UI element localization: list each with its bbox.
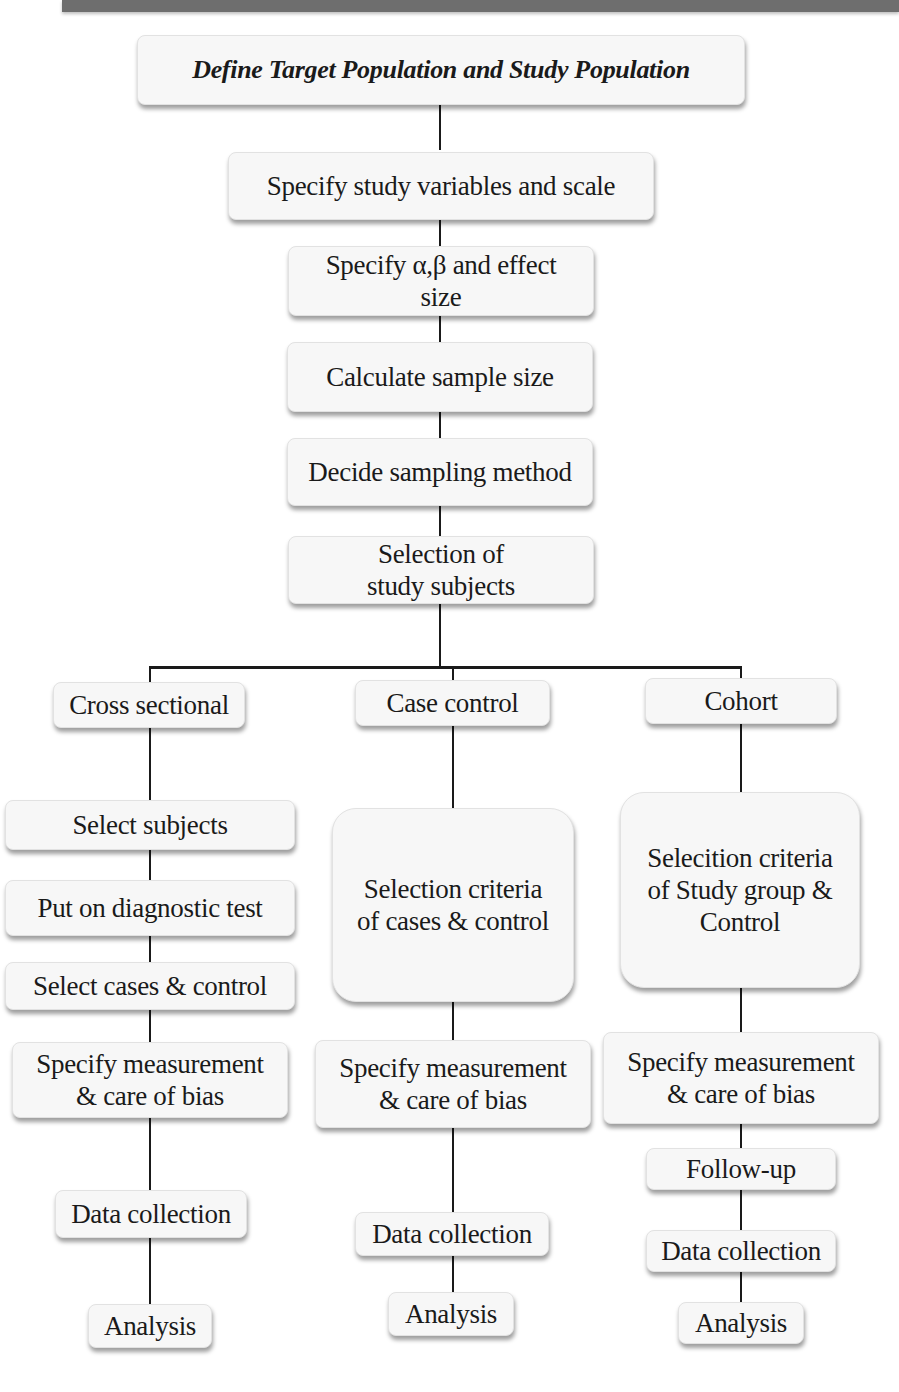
connector (149, 1238, 151, 1304)
connector (439, 220, 441, 246)
selection-criteria-cases-box: Selection criteria of cases & control (332, 808, 574, 1002)
analysis-box-case: Analysis (388, 1292, 514, 1336)
connector (439, 506, 441, 536)
connector (740, 1124, 742, 1150)
connector (439, 604, 441, 668)
case-control-header: Case control (355, 680, 550, 726)
selection-criteria-study-group-box: Selecition criteria of Study group & Con… (620, 792, 860, 988)
analysis-box-cross: Analysis (88, 1304, 212, 1348)
connector (452, 726, 454, 808)
selection-subjects-box: Selection of study subjects (288, 536, 594, 604)
specify-measurement-box-case: Specify measurement & care of bias (315, 1040, 591, 1128)
connector (149, 1118, 151, 1190)
follow-up-box: Follow-up (646, 1148, 836, 1190)
analysis-box-cohort: Analysis (678, 1302, 804, 1344)
data-collection-box-cohort: Data collection (646, 1230, 836, 1272)
sample-size-box: Calculate sample size (287, 342, 593, 412)
data-collection-box-cross: Data collection (55, 1190, 247, 1238)
connector (740, 988, 742, 1032)
specify-measurement-box-cross: Specify measurement & care of bias (12, 1042, 288, 1118)
connector (452, 1256, 454, 1292)
cross-sectional-header: Cross sectional (53, 682, 245, 728)
sampling-method-box: Decide sampling method (287, 438, 593, 506)
connector (439, 104, 441, 150)
define-population-box: Define Target Population and Study Popul… (137, 35, 745, 105)
connector (149, 850, 151, 880)
select-subjects-box: Select subjects (5, 800, 295, 850)
specify-measurement-box-cohort: Specify measurement & care of bias (603, 1032, 879, 1124)
connector (149, 728, 151, 800)
connector (740, 1190, 742, 1230)
alpha-beta-effect-size-box: Specify α,β and effect size (288, 246, 594, 316)
branch-connector (149, 666, 741, 669)
study-variables-box: Specify study variables and scale (228, 152, 654, 220)
connector (740, 1272, 742, 1302)
connector (439, 412, 441, 438)
cohort-header: Cohort (645, 678, 837, 724)
top-banner-bar (62, 0, 899, 12)
connector (740, 724, 742, 792)
select-cases-control-box: Select cases & control (5, 962, 295, 1010)
data-collection-box-case: Data collection (355, 1212, 549, 1256)
diagnostic-test-box: Put on diagnostic test (5, 880, 295, 936)
connector (452, 1002, 454, 1040)
connector (439, 316, 441, 344)
connector (452, 1128, 454, 1212)
connector (149, 936, 151, 962)
connector (149, 1010, 151, 1042)
